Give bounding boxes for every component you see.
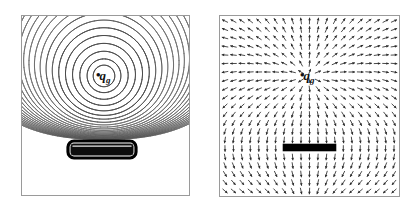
physics-figure: •qg •qg (0, 0, 415, 211)
charge-subscript-right: g (310, 75, 315, 85)
charge-subscript-left: g (106, 75, 111, 85)
right-panel-vector-field (219, 15, 400, 197)
left-panel-contour-plot (21, 15, 190, 196)
charge-label-left: •qg (96, 68, 111, 85)
vector-field-svg (219, 15, 400, 197)
charge-label-right: •qg (300, 68, 315, 85)
contour-plot-svg (21, 15, 190, 196)
